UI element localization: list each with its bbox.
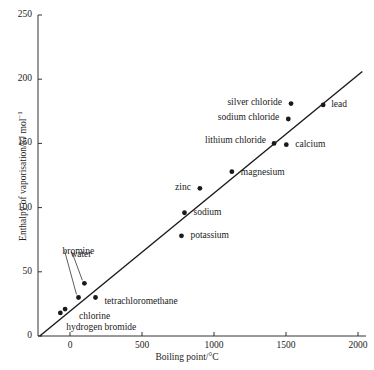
data-point-marker[interactable] xyxy=(321,102,326,107)
data-point-label: sodium xyxy=(193,207,221,217)
data-point-marker[interactable] xyxy=(179,233,184,238)
x-tick-label: 1500 xyxy=(261,340,311,350)
y-tick-label: 0 xyxy=(0,330,32,340)
x-tick-label: 0 xyxy=(45,340,95,350)
y-axis-title-exponent: −1 xyxy=(16,111,24,118)
data-point-label: sodium chloride xyxy=(79,112,279,122)
data-point-label: hydrogen bromide xyxy=(66,322,136,332)
data-point-marker[interactable] xyxy=(93,295,98,300)
y-tick-label: 250 xyxy=(0,9,32,19)
data-point-marker[interactable] xyxy=(272,141,277,146)
data-point-label: chlorine xyxy=(79,311,110,321)
data-point-marker[interactable] xyxy=(63,307,68,312)
data-point-label: potassium xyxy=(190,230,229,240)
data-point-label: tetrachloromethane xyxy=(104,296,177,306)
data-point-marker[interactable] xyxy=(197,186,202,191)
data-point-marker[interactable] xyxy=(58,310,63,315)
data-point-label: calcium xyxy=(295,139,325,149)
data-point-marker[interactable] xyxy=(286,117,291,122)
data-point-marker[interactable] xyxy=(284,142,289,147)
y-axis-title: Enthalpy of vaporisation/kJ mol−1 xyxy=(16,96,28,256)
x-axis-title: Boiling point/°C xyxy=(0,352,374,362)
data-point-label: silver chloride xyxy=(82,97,282,107)
data-point-marker[interactable] xyxy=(76,295,81,300)
data-point-marker[interactable] xyxy=(182,210,187,215)
x-tick-label: 1000 xyxy=(189,340,239,350)
x-tick-label: 500 xyxy=(117,340,167,350)
data-point-marker[interactable] xyxy=(229,169,234,174)
y-tick-label: 200 xyxy=(0,73,32,83)
data-point-marker[interactable] xyxy=(82,281,87,286)
data-point-label: lithium chloride xyxy=(66,135,266,145)
scatter-chart: Enthalpy of vaporisation/kJ mol−1 Boilin… xyxy=(0,0,374,370)
x-tick-label: 2000 xyxy=(333,340,374,350)
data-point-label: magnesium xyxy=(241,167,285,177)
y-tick-label: 50 xyxy=(0,266,32,276)
data-point-label: lead xyxy=(331,99,347,109)
data-point-label: water xyxy=(70,249,91,259)
data-point-label: zinc xyxy=(0,182,191,192)
y-tick-label: 150 xyxy=(0,137,32,147)
data-point-marker[interactable] xyxy=(289,101,294,106)
y-tick-label: 100 xyxy=(0,202,32,212)
